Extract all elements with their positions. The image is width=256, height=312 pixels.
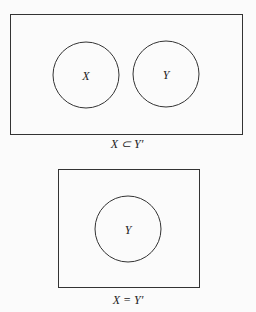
caption-equal: X = Y′ [112, 293, 144, 307]
caption-subset: X ⊂ Y′ [110, 137, 144, 151]
venn-diagram-subset: X Y X ⊂ Y′ [11, 15, 243, 152]
set-label-y: Y [125, 223, 133, 237]
venn-diagrams: X Y X ⊂ Y′ Y X = Y′ [0, 0, 256, 312]
set-label-y: Y [163, 68, 171, 82]
set-label-x: X [81, 69, 90, 83]
venn-diagram-equal: Y X = Y′ [59, 170, 200, 308]
universe-rectangle [11, 15, 243, 135]
